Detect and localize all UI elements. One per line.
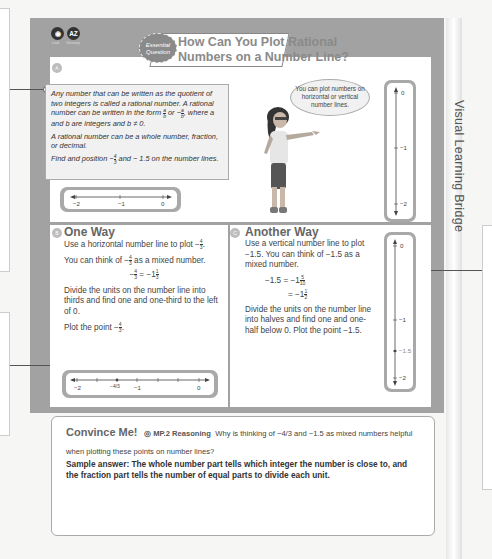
fraction-4-3: 43: [134, 269, 137, 280]
lesson-page: Visual Learning Bridge ◉ Look AZ Glossar…: [0, 0, 492, 559]
fraction-4-3: 43: [119, 322, 122, 333]
find-text: Find and position −43 and − 1.5 on the n…: [51, 154, 223, 165]
essential-question-badge: Essential Question: [139, 33, 177, 63]
vertical-number-line-a: 0 −1 −2: [384, 80, 416, 222]
eq2-lhs: = −1: [288, 289, 304, 298]
one-way-p3: Divide the units on the number line into…: [64, 286, 224, 318]
horizontal-number-line-b: −2 −4/3 −1 0: [62, 370, 218, 398]
definition-text: Any number that can be written as the qu…: [51, 89, 223, 129]
fraction-4-3: 43: [200, 239, 203, 250]
tick-label: 0: [197, 384, 200, 391]
horizontal-number-line: −2 −1 0: [60, 187, 181, 212]
find-prefix: Find and position: [51, 154, 107, 163]
number-line-axis: [384, 232, 416, 392]
convince-me-header: Convince Me! ◎ MP.2 Reasoning Why is thi…: [66, 422, 420, 458]
p2-suffix: as a mixed number.: [134, 256, 205, 265]
glossary-icon[interactable]: AZ: [67, 27, 80, 40]
look-label: Look: [52, 41, 60, 45]
or-word: or: [168, 109, 175, 118]
p1-text: Use a horizontal number line to plot −: [64, 240, 200, 249]
p4-text: Plot the point −: [64, 323, 119, 332]
one-way-p1: Use a horizontal number line to plot −43…: [64, 239, 224, 250]
tick-label: −2: [74, 384, 81, 391]
definition-box: Any number that can be written as the qu…: [45, 84, 229, 180]
one-way-title: One Way: [64, 225, 224, 239]
eye-icon[interactable]: ◉: [51, 27, 64, 40]
page-title: How Can You Plot Rational Numbers on a N…: [178, 35, 349, 65]
sample-answer: Sample answer: The whole number part tel…: [66, 459, 420, 480]
connector-line: [10, 89, 47, 90]
practice-standard: ◎ MP.2 Reasoning: [142, 429, 211, 438]
fraction-5-10: 510: [300, 275, 306, 286]
glossary-glyph: AZ: [69, 30, 78, 37]
section-b-marker: B: [52, 228, 62, 238]
side-note-left-bottom[interactable]: [0, 312, 10, 436]
one-way-p4: Plot the point −43.: [64, 322, 224, 333]
title-line-1: How Can You Plot Rational: [178, 35, 349, 50]
glossary-label: Glossary: [66, 41, 80, 45]
tick-label: −1: [134, 384, 141, 391]
tick-label: −1.5: [399, 347, 411, 354]
tick-label: −1: [118, 200, 125, 207]
another-way-p2: Divide the units on the number line into…: [245, 305, 373, 337]
equation-middle: = −1: [139, 270, 155, 279]
section-c-marker: C: [230, 228, 240, 238]
fraction-1-3: 13: [156, 269, 159, 280]
section-a-marker: A: [52, 63, 62, 73]
tick-label: −2: [399, 374, 406, 381]
title-line-2: Numbers on a Number Line?: [178, 50, 349, 65]
p2-prefix: You can think of −: [64, 256, 129, 265]
convince-me-title: Convince Me!: [66, 426, 138, 438]
fraction-4-3: 43: [114, 154, 117, 165]
decimal-equation-1: −1.5 = −1510: [245, 275, 373, 286]
fraction-a-over-b: ab: [163, 108, 166, 119]
tick-label: −4/3: [110, 383, 120, 389]
fraction-4-3: 43: [129, 255, 132, 266]
tick-label: −2: [400, 200, 407, 207]
find-suffix: and − 1.5 on the number lines.: [119, 154, 219, 163]
whole-number-text: A rational number can be a whole number,…: [51, 132, 223, 151]
connector-line: [423, 270, 482, 271]
decimal-equation-2: = −112: [245, 289, 373, 300]
convince-me-box: Convince Me! ◎ MP.2 Reasoning Why is thi…: [51, 416, 435, 536]
practice-label: MP.2 Reasoning: [153, 429, 211, 438]
tick-label: 0: [161, 200, 164, 207]
tick-label: −1: [400, 144, 407, 151]
tick-label: 0: [400, 242, 403, 249]
side-note-right[interactable]: [482, 225, 492, 490]
mixed-number-equation: −43 = −113: [64, 269, 224, 280]
connector-line: [10, 365, 55, 366]
tick-label: 0: [401, 89, 404, 96]
side-note-left-top[interactable]: [0, 8, 10, 272]
visual-learning-bridge-label: Visual Learning Bridge: [452, 100, 466, 232]
vertical-number-line-c: 0 −1 −1.5 −2: [384, 232, 416, 392]
section-b-content: One Way Use a horizontal number line to …: [64, 225, 224, 333]
section-c-content: Another Way Use a vertical number line t…: [245, 225, 373, 336]
character-illustration: [256, 107, 326, 222]
tick-label: −1: [399, 316, 406, 323]
fraction-1-2: 12: [304, 289, 307, 300]
tick-label: −2: [73, 200, 80, 207]
another-way-p1: Use a vertical number line to plot −1.5.…: [245, 239, 373, 271]
eye-glyph: ◉: [55, 30, 61, 38]
one-way-p2: You can think of −43 as a mixed number.: [64, 255, 224, 266]
eq1-lhs: −1.5 = −1: [265, 275, 300, 284]
another-way-title: Another Way: [245, 225, 373, 239]
